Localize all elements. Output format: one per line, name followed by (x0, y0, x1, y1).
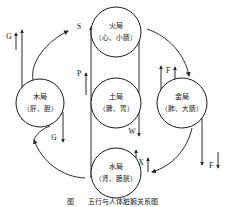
marker-w: W (128, 127, 136, 136)
node-wood-element: 木局 (33, 92, 47, 101)
figure-caption: 图 五行与人体脏腑关系图 (0, 198, 225, 207)
node-fire[interactable]: 火局 （心、小肠） (91, 7, 141, 57)
node-metal-element: 金局 (175, 92, 189, 101)
node-earth[interactable]: 土局 （脾、胃） (91, 78, 141, 128)
node-water-element: 水局 (109, 162, 123, 171)
node-earth-circle[interactable] (91, 78, 141, 128)
marker-f-down: F (209, 161, 213, 170)
five-elements-diagram: 火局 （心、小肠） 木局 （肝、胆） 土局 （脾、胃） 金局 （肺、大肠） 水局… (0, 0, 225, 207)
node-wood-organs: （肝、胆） (23, 105, 58, 113)
center-left-axis (86, 27, 91, 178)
node-water-organs: （肾、膀胱） (95, 174, 137, 183)
node-earth-organs: （脾、胃） (99, 104, 134, 113)
node-metal-circle[interactable] (157, 78, 207, 128)
node-fire-organs: （心、小肠） (95, 33, 137, 42)
marker-g-up: G (6, 32, 12, 41)
path-water-to-wood (34, 140, 85, 178)
node-wood-circle[interactable] (16, 79, 64, 127)
node-earth-element: 土局 (109, 92, 123, 101)
path-wood-lower-link (34, 126, 50, 140)
node-water-circle[interactable] (91, 148, 141, 198)
node-wood[interactable]: 木局 （肝、胆） (16, 79, 64, 127)
marker-s: S (77, 22, 81, 31)
node-metal[interactable]: 金局 （肺、大肠） (157, 78, 207, 128)
marker-p: P (77, 69, 81, 78)
figure-canvas: 火局 （心、小肠） 木局 （肝、胆） 土局 （脾、胃） 金局 （肺、大肠） 水局… (0, 0, 225, 207)
node-water[interactable]: 水局 （肾、膀胱） (91, 148, 141, 198)
marker-f-up: F (166, 66, 170, 75)
node-fire-circle[interactable] (91, 7, 141, 57)
path-metal-to-water (152, 128, 192, 172)
node-metal-organs: （肺、大肠） (161, 104, 203, 113)
marker-g-down: G (51, 133, 57, 142)
node-fire-element: 火局 (109, 22, 123, 30)
path-wood-to-fire (33, 31, 68, 80)
marker-x: X (138, 158, 144, 167)
